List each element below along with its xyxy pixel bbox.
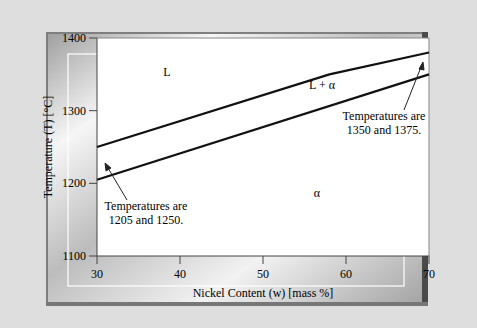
y-axis-label: Temperature (T) [°C] [41,96,55,199]
y-tick-label: 1200 [62,176,86,190]
region-label-two-phase: L + α [309,78,336,92]
x-tick-label: 40 [174,267,186,281]
annotation-right-line2: 1350 and 1375. [347,123,421,137]
x-tick-label: 50 [257,267,269,281]
plot: 1100120013001400 3040506070 L L + α α Te… [0,0,477,328]
y-tick-label: 1400 [62,31,86,45]
annotation-left-line1: Temperatures are [105,199,188,213]
region-label-liquid: L [163,65,170,79]
x-tick-label: 30 [91,267,103,281]
annotation-left-line2: 1205 and 1250. [109,213,183,227]
y-tick-label: 1100 [62,249,86,263]
x-tick-label: 70 [423,267,435,281]
x-tick-label: 60 [340,267,352,281]
x-axis-label: Nickel Content (w) [mass %] [193,286,334,300]
region-label-alpha: α [314,186,321,200]
y-tick-label: 1300 [62,104,86,118]
annotation-right-line1: Temperatures are [343,109,426,123]
